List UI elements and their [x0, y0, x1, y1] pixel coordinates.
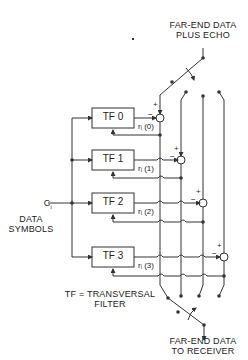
input-subscript: i — [50, 204, 52, 210]
filter-tf0: TF 0 — [92, 108, 134, 126]
bottom-label-line-1: FAR-END DATA — [160, 336, 246, 346]
minus-sign-2: − — [191, 195, 196, 204]
filter-tf3: TF 3 — [92, 247, 134, 265]
plus-sign-3: + — [217, 241, 222, 250]
output-r3: rᵢ (3) — [138, 261, 154, 270]
output-r0: rᵢ (0) — [138, 122, 154, 131]
filter-tf1: TF 1 — [92, 150, 134, 168]
filter-tf2: TF 2 — [92, 193, 134, 211]
minus-sign-3: − — [212, 249, 217, 258]
legend-line-1: TF = TRANSVERSAL — [60, 289, 160, 299]
plus-sign-2: + — [196, 187, 201, 196]
minus-sign-1: − — [170, 152, 175, 161]
bottom-label-line-2: TO RECEIVER — [160, 346, 246, 356]
data-symbols-line-1: DATA — [6, 214, 56, 224]
top-label-line-1: FAR-END DATA — [160, 20, 246, 30]
legend-transversal-filter: TF = TRANSVERSAL FILTER — [60, 289, 160, 309]
top-label-line-2: PLUS ECHO — [160, 30, 246, 40]
output-r1: rᵢ (1) — [138, 164, 154, 173]
plus-sign-0: + — [153, 100, 158, 109]
input-symbol-label: Ci — [2, 198, 52, 212]
legend-line-2: FILTER — [60, 299, 160, 309]
far-end-data-to-receiver-label: FAR-END DATA TO RECEIVER — [160, 336, 246, 356]
output-r2: rᵢ (2) — [138, 207, 154, 216]
data-symbols-line-2: SYMBOLS — [6, 224, 56, 234]
data-symbols-label: DATA SYMBOLS — [6, 214, 56, 234]
minus-sign-0: − — [148, 110, 153, 119]
far-end-data-plus-echo-label: FAR-END DATA PLUS ECHO — [160, 20, 246, 40]
